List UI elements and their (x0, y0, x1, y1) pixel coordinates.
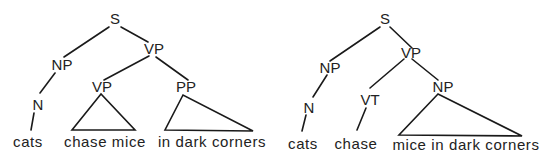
node-n: N (304, 99, 315, 116)
tree-right: S VP NP N VT NP cats chase mice in dark … (288, 10, 539, 153)
edge-vp-np (412, 59, 438, 80)
node-s: S (380, 10, 390, 27)
node-vp: VP (144, 40, 164, 57)
edge-n-cats (31, 113, 34, 130)
edge-vp-pp (156, 57, 188, 80)
triangle-pp-in-dark-corners (165, 95, 253, 131)
node-s: S (110, 10, 120, 27)
node-vt: VT (360, 91, 379, 108)
edge-vp-vt (370, 59, 404, 88)
node-pp: PP (176, 78, 196, 95)
leaf-chase-mice: chase mice (64, 133, 146, 150)
syntax-tree-diagram: S VP NP N VP PP cats chase mice in dark … (0, 0, 554, 156)
triangle-np-mice-in-dark-corners (399, 94, 522, 136)
node-np: NP (52, 56, 73, 73)
edge-vt-chase (357, 108, 366, 130)
edge-s-np (64, 27, 109, 57)
tree-left: S VP NP N VP PP cats chase mice in dark … (13, 10, 266, 150)
edge-np-n (40, 73, 55, 93)
node-np-object: NP (433, 78, 454, 95)
node-np: NP (320, 59, 341, 76)
edge-vp-vp (104, 56, 149, 80)
leaf-cats: cats (288, 135, 318, 152)
leaf-in-dark-corners: in dark corners (158, 133, 266, 150)
node-vp: VP (401, 44, 421, 61)
leaf-chase: chase (334, 135, 377, 152)
node-vp-inner: VP (92, 78, 112, 95)
leaf-mice-in-dark-corners: mice in dark corners (392, 136, 539, 153)
edge-np-n (313, 75, 327, 97)
edge-n-cats (302, 115, 306, 131)
leaf-cats: cats (13, 133, 43, 150)
edge-s-np (330, 27, 380, 61)
node-n: N (33, 96, 44, 113)
triangle-vp-chase-mice (72, 94, 135, 130)
